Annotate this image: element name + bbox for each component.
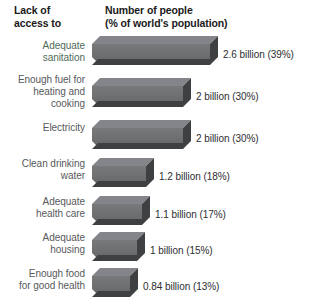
value-label: 2 billion (30%) <box>196 133 259 145</box>
category-label-line: housing <box>0 244 85 256</box>
bar <box>92 268 138 297</box>
category-label: Enough foodfor good health <box>0 268 85 292</box>
bar-under-strip <box>92 59 210 65</box>
header-category-title: Lack of access to <box>14 4 92 30</box>
category-label-line: Electricity <box>0 122 85 134</box>
bar-under-strip <box>92 291 130 297</box>
category-label-line: Adequate <box>0 40 85 52</box>
bar-top-face <box>92 78 191 86</box>
bar-top-face <box>92 232 145 240</box>
category-label-line: heating and <box>0 86 85 98</box>
bar <box>92 78 191 107</box>
bar-top-face <box>92 196 150 204</box>
bar-top-face <box>92 120 191 128</box>
bar-top-face <box>92 268 138 276</box>
bar-under-strip <box>92 101 183 107</box>
bar-chart: Lack of access to Number of people (% of… <box>0 0 333 306</box>
category-label-line: Clean drinking <box>0 158 85 170</box>
bar-under-strip <box>92 143 183 149</box>
header-value-line1: Number of people <box>105 4 305 17</box>
bar <box>92 196 150 225</box>
header-category-line2: access to <box>14 17 92 30</box>
bar-under-strip <box>92 219 142 225</box>
category-label-line: water <box>0 170 85 182</box>
header-category-line1: Lack of <box>14 4 92 17</box>
value-label: 2 billion (30%) <box>196 91 259 103</box>
category-label-line: for good health <box>0 280 85 292</box>
category-label-line: sanitation <box>0 52 85 64</box>
category-label: Electricity <box>0 122 85 134</box>
bar <box>92 232 145 261</box>
header-value-title: Number of people (% of world's populatio… <box>105 4 305 30</box>
value-label: 1.1 billion (17%) <box>155 209 226 221</box>
header-value-line2: (% of world's population) <box>105 17 305 30</box>
value-label: 1.2 billion (18%) <box>159 171 230 183</box>
category-label-line: Enough fuel for <box>0 74 85 86</box>
category-label-line: Adequate <box>0 196 85 208</box>
category-label-line: health care <box>0 208 85 220</box>
bar <box>92 36 218 65</box>
bar-under-strip <box>92 255 137 261</box>
bar-top-face <box>92 158 154 166</box>
bar <box>92 120 191 149</box>
category-label-line: cooking <box>0 98 85 110</box>
value-label: 1 billion (15%) <box>150 245 213 257</box>
category-label: Adequatehousing <box>0 232 85 256</box>
category-label: Enough fuel forheating andcooking <box>0 74 85 110</box>
bar-under-strip <box>92 181 146 187</box>
bar <box>92 158 154 187</box>
category-label: Adequatesanitation <box>0 40 85 64</box>
category-label: Clean drinkingwater <box>0 158 85 182</box>
bar-top-face <box>92 36 218 44</box>
category-label-line: Enough food <box>0 268 85 280</box>
value-label: 2.6 billion (39%) <box>223 49 294 61</box>
category-label-line: Adequate <box>0 232 85 244</box>
category-label: Adequatehealth care <box>0 196 85 220</box>
value-label: 0.84 billion (13%) <box>143 281 219 293</box>
